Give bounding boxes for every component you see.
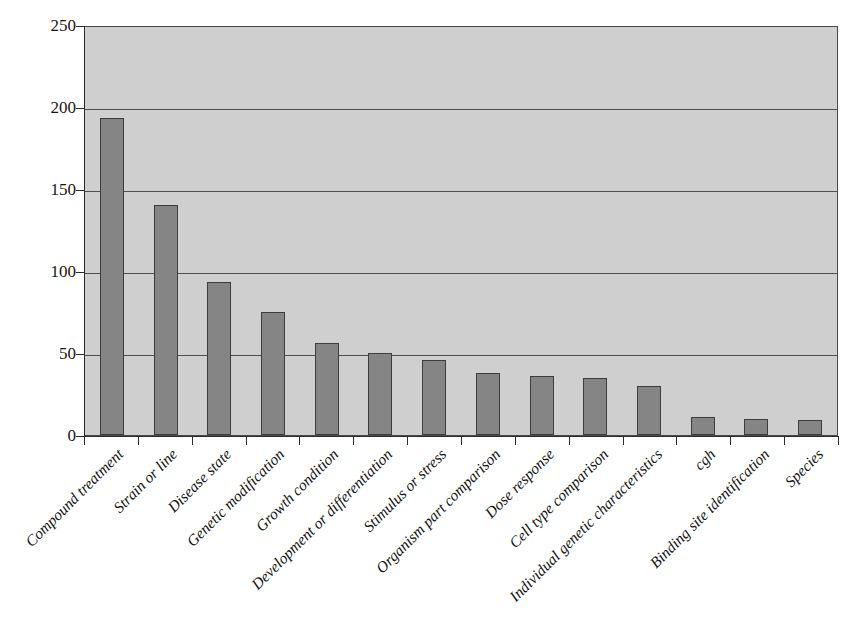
y-tick-label-100: 100 <box>30 263 76 280</box>
x-axis-label: Binding site identification <box>761 446 772 457</box>
bar[interactable] <box>744 419 768 435</box>
x-axis-label: Strain or line <box>169 446 180 457</box>
bar-slot <box>300 27 354 435</box>
bar-chart-figure: 050100150200250 Compound treatmentStrain… <box>0 0 857 630</box>
bar[interactable] <box>476 373 500 435</box>
x-tick-mark <box>784 437 785 445</box>
x-axis-label: Dose response <box>546 446 557 457</box>
x-axis-label: cgh <box>707 446 718 457</box>
x-axis-label: Stimulus or stress <box>438 446 449 457</box>
bar[interactable] <box>583 378 607 435</box>
bar[interactable] <box>691 417 715 435</box>
x-tick-mark <box>623 437 624 445</box>
x-axis-label: Individual genetic characteristics <box>654 446 665 457</box>
x-tick-mark <box>461 437 462 445</box>
x-axis-label: Cell type comparison <box>600 446 611 457</box>
x-tick-mark <box>299 437 300 445</box>
x-tick-mark <box>246 437 247 445</box>
x-axis-label: Development or differentiation <box>384 446 395 457</box>
x-tick-mark <box>407 437 408 445</box>
bar-slot <box>622 27 676 435</box>
x-axis-ticks <box>84 437 838 445</box>
x-tick-mark <box>838 437 839 445</box>
x-tick-mark <box>730 437 731 445</box>
bar[interactable] <box>315 343 339 435</box>
x-axis-label: Organism part comparison <box>492 446 503 457</box>
bar-slot <box>354 27 408 435</box>
bar-slot <box>85 27 139 435</box>
bar-slot <box>139 27 193 435</box>
x-tick-mark <box>515 437 516 445</box>
bar[interactable] <box>422 360 446 435</box>
bar[interactable] <box>100 118 124 435</box>
x-axis-labels: Compound treatmentStrain or lineDisease … <box>84 446 838 626</box>
x-axis-label: Species <box>815 446 826 457</box>
x-tick-mark <box>353 437 354 445</box>
bar-series <box>85 27 837 435</box>
x-tick-mark <box>192 437 193 445</box>
y-tick-label-0: 0 <box>30 427 76 444</box>
bar-slot <box>568 27 622 435</box>
plot-area <box>84 26 838 436</box>
x-axis-label: Disease state <box>223 446 234 457</box>
y-tick-label-50: 50 <box>30 345 76 362</box>
bar-slot <box>246 27 300 435</box>
y-tick-label-250: 250 <box>30 17 76 34</box>
bar-slot <box>515 27 569 435</box>
bar[interactable] <box>368 353 392 435</box>
x-tick-mark <box>676 437 677 445</box>
bar-slot <box>461 27 515 435</box>
bar[interactable] <box>530 376 554 435</box>
y-tick-label-150: 150 <box>30 181 76 198</box>
x-tick-mark <box>138 437 139 445</box>
x-axis-label: Genetic modification <box>276 446 287 457</box>
x-tick-mark <box>84 437 85 445</box>
y-tick-label-200: 200 <box>30 99 76 116</box>
bar[interactable] <box>637 386 661 435</box>
bar-slot <box>676 27 730 435</box>
bar-slot <box>407 27 461 435</box>
bar-slot <box>783 27 837 435</box>
bar[interactable] <box>798 420 822 435</box>
bar[interactable] <box>154 205 178 435</box>
bar-slot <box>730 27 784 435</box>
bar[interactable] <box>207 282 231 435</box>
x-axis-label: Compound treatment <box>115 446 126 457</box>
x-tick-mark <box>569 437 570 445</box>
bar-slot <box>192 27 246 435</box>
y-axis-line <box>84 26 85 437</box>
x-axis-label: Growth condition <box>330 446 341 457</box>
bar[interactable] <box>261 312 285 435</box>
